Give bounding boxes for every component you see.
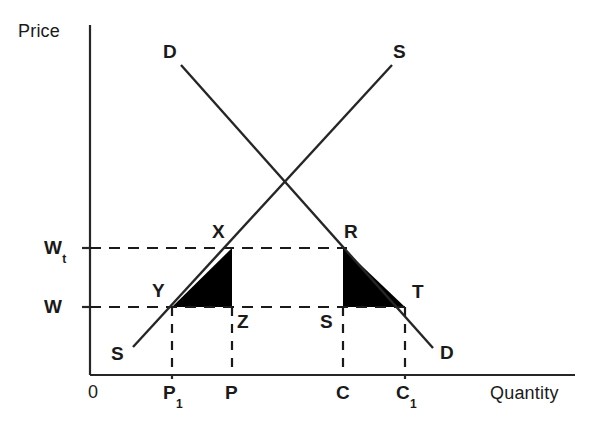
x-tick-label-c1: C1 [396,383,417,406]
x-tick-label-p: P [225,383,238,402]
supply-curve-label-bottom: S [111,344,124,363]
chart-canvas [0,0,601,430]
y-tick-label-wt: Wt [44,238,66,261]
point-label-z: Z [237,312,249,331]
x-tick-label-p-main: P [225,382,238,403]
point-label-s: S [320,312,333,331]
x-axis-title: Quantity [490,384,559,402]
x-tick-label-c-main: C [336,382,350,403]
x-tick-label-p1-main: P [163,382,176,403]
point-label-t: T [412,282,424,301]
point-label-r: R [344,222,358,241]
y-tick-label-w: W [44,297,62,316]
y-tick-label-wt-sub: t [62,252,66,266]
x-tick-label-p1: P1 [163,383,183,406]
x-tick-label-c1-sub: 1 [410,397,417,411]
x-tick-label-c1-main: C [396,382,410,403]
y-tick-label-w-main: W [44,296,62,317]
y-axis-title: Price [18,22,60,40]
origin-label: 0 [88,383,98,401]
demand-curve-label-bottom: D [440,343,454,362]
point-label-x: X [212,222,225,241]
x-tick-label-p1-sub: 1 [176,397,183,411]
demand-curve-label-top: D [163,42,177,61]
supply-curve-label-top: S [393,42,406,61]
x-tick-label-c: C [336,383,350,402]
y-tick-label-wt-main: W [44,237,62,258]
shaded-region-left-xyz [172,248,232,307]
point-label-y: Y [152,281,165,300]
supply-demand-chart: Price Quantity 0 Wt W P1 P C C1 D D S S … [0,0,601,430]
